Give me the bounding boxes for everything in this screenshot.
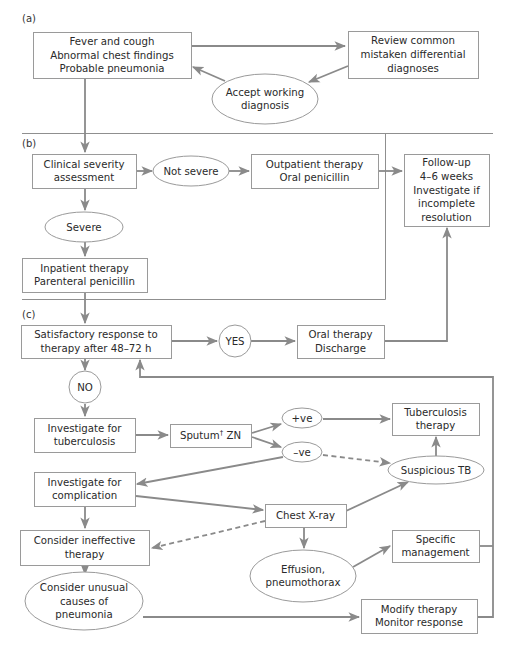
node-followup-label: resolution — [421, 212, 472, 223]
node-yes-label: YES — [224, 336, 244, 347]
node-ineffective-label: therapy — [65, 549, 105, 560]
node-susptb-label: Suspicious TB — [401, 465, 471, 476]
node-cxr-label: Chest X-ray — [276, 510, 335, 521]
node-outpatient-label: Oral penicillin — [280, 172, 350, 183]
node-specific-label: management — [401, 547, 469, 558]
edge-neg-invcomp — [137, 457, 283, 484]
node-accept-ellipse — [212, 74, 318, 124]
node-unusual: Consider unusualcauses ofpneumonia — [25, 572, 143, 630]
node-tbtherapy-label: Tuberculosis — [403, 407, 466, 418]
node-specific: Specificmanagement — [393, 531, 480, 563]
edge-oral-followup — [384, 228, 447, 341]
node-clinical-label: Clinical severity — [44, 159, 125, 170]
node-modify-label: Monitor response — [375, 617, 463, 628]
node-modify-label: Modify therapy — [381, 604, 458, 615]
node-invtb: Investigate fortuberculosis — [35, 419, 136, 453]
node-neg: –ve — [282, 442, 322, 462]
node-satisfactory-label: Satisfactory response to — [34, 329, 158, 340]
node-inpatient-label: Parenteral penicillin — [34, 276, 135, 287]
nodes: Fever and coughAbnormal chest findingsPr… — [21, 32, 490, 634]
node-review-label: mistaken differential — [361, 49, 466, 60]
node-clinical-label: assessment — [54, 172, 114, 183]
edge-review-accept — [309, 66, 348, 82]
node-effusion: Effusion,pneumothorax — [250, 550, 356, 602]
panel-label-a: (a) — [22, 13, 36, 24]
panel-label-c: (c) — [22, 309, 35, 320]
node-followup-label: Follow-up — [422, 157, 471, 168]
node-followup: Follow-up4–6 weeksInvestigate ifincomple… — [405, 155, 490, 227]
node-clinical: Clinical severityassessment — [33, 155, 137, 189]
pneumonia-management-flowchart: (a) (b) (c) — [0, 0, 510, 649]
node-ineffective: Consider ineffectivetherapy — [21, 531, 150, 566]
node-fever-label: Probable pneumonia — [59, 63, 164, 74]
edge-neg-susptb — [323, 455, 390, 463]
node-review: Review commonmistaken differentialdiagno… — [349, 32, 479, 79]
node-oral: Oral therapyDischarge — [298, 326, 385, 359]
node-notsevere: Not severe — [153, 156, 229, 186]
node-inpatient-label: Inpatient therapy — [40, 263, 129, 274]
node-effusion-ellipse — [250, 550, 356, 602]
node-severe-label: Severe — [66, 222, 101, 233]
node-severe: Severe — [45, 212, 123, 242]
edge-cxr-susptb — [346, 482, 408, 511]
node-fever: Fever and coughAbnormal chest findingsPr… — [34, 33, 192, 79]
node-susptb: Suspicious TB — [388, 456, 484, 484]
node-tbtherapy-label: therapy — [416, 420, 456, 431]
node-pos-label: +ve — [292, 413, 313, 424]
node-satisfactory-label: therapy after 48–72 h — [41, 343, 152, 354]
edge-sputum-pos — [252, 424, 281, 433]
edge-sputum-neg — [252, 437, 281, 447]
edge-invcomp-cxr — [136, 496, 263, 510]
edge-accept-fever — [193, 67, 225, 81]
node-accept-label: diagnosis — [241, 100, 289, 111]
node-modify: Modify therapyMonitor response — [362, 600, 478, 634]
node-followup-label: 4–6 weeks — [420, 171, 473, 182]
node-unusual-label: Consider unusual — [40, 582, 128, 593]
node-no-label: NO — [77, 382, 93, 393]
node-notsevere-label: Not severe — [163, 166, 218, 177]
node-cxr: Chest X-ray — [266, 505, 347, 528]
node-fever-label: Abnormal chest findings — [50, 50, 174, 61]
node-ineffective-label: Consider ineffective — [34, 535, 136, 546]
node-followup-label: incomplete — [418, 198, 475, 209]
node-unusual-label: causes of — [60, 596, 109, 607]
panel-label-b: (b) — [22, 138, 36, 149]
edge-cxr-ineffective — [152, 521, 265, 548]
node-outpatient: Outpatient therapyOral penicillin — [252, 155, 379, 189]
node-accept: Accept workingdiagnosis — [212, 74, 318, 124]
node-specific-label: Specific — [416, 534, 456, 545]
node-invcomp-label: Investigate for — [47, 477, 122, 488]
node-review-label: diagnoses — [387, 63, 439, 74]
node-yes: YES — [219, 325, 251, 357]
node-unusual-label: pneumonia — [55, 609, 112, 620]
node-followup-label: Investigate if — [413, 185, 480, 196]
node-satisfactory: Satisfactory response totherapy after 48… — [22, 326, 172, 359]
node-sputum: Sputum† ZN — [171, 425, 252, 448]
node-tbtherapy: Tuberculosistherapy — [393, 404, 480, 436]
node-review-label: Review common — [371, 35, 455, 46]
node-oral-label: Discharge — [315, 343, 366, 354]
node-invtb-label: tuberculosis — [54, 436, 116, 447]
node-outpatient-label: Outpatient therapy — [266, 159, 364, 170]
node-inpatient: Inpatient therapyParenteral penicillin — [23, 259, 148, 293]
node-effusion-label: pneumothorax — [266, 577, 341, 588]
edge-effusion-specific — [353, 546, 390, 567]
node-no: NO — [69, 371, 101, 403]
node-oral-label: Oral therapy — [308, 329, 372, 340]
node-effusion-label: Effusion, — [281, 564, 325, 575]
node-invcomp: Investigate forcomplication — [35, 473, 136, 507]
node-pos: +ve — [282, 408, 322, 428]
node-fever-label: Fever and cough — [70, 36, 155, 47]
node-invtb-label: Investigate for — [47, 423, 122, 434]
node-accept-label: Accept working — [226, 87, 304, 98]
node-invcomp-label: complication — [52, 490, 117, 501]
node-neg-label: –ve — [293, 447, 310, 458]
node-sputum-label: Sputum† ZN — [180, 429, 241, 441]
